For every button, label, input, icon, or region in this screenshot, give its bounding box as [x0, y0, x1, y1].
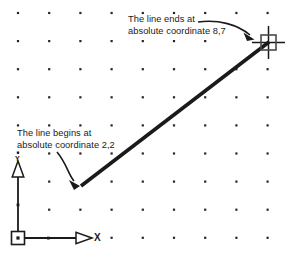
- ucs-x-axis: [18, 232, 92, 244]
- end-annotation-text: The line ends at absolute coordinate 8,7: [128, 14, 226, 37]
- ucs-y-axis: [12, 152, 24, 238]
- drawn-line-object[interactable]: [81, 42, 269, 186]
- crosshair-cursor-icon: [252, 26, 285, 59]
- end-annotation-line2: absolute coordinate 8,7: [128, 26, 226, 38]
- end-annotation-line1: The line ends at: [128, 14, 226, 26]
- start-annotation-text: The line begins at absolute coordinate 2…: [17, 128, 115, 151]
- leader-arrow-start: [57, 152, 80, 190]
- ucs-origin-marker: [12, 232, 25, 245]
- cad-drawing-area[interactable]: The line ends at absolute coordinate 8,7…: [0, 0, 286, 260]
- start-annotation-line1: The line begins at: [17, 128, 115, 140]
- x-axis-label: X: [94, 232, 101, 243]
- grid-dot-layer: [17, 12, 269, 239]
- y-axis-label: Y: [15, 155, 20, 162]
- start-annotation-line2: absolute coordinate 2,2: [17, 140, 115, 152]
